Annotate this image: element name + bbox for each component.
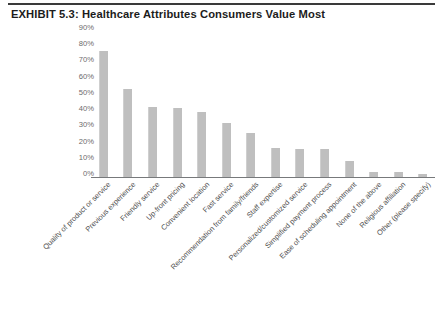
exhibit-page: EXHIBIT 5.3: Healthcare Attributes Consu… — [0, 0, 443, 323]
bar — [99, 51, 108, 177]
bar — [173, 108, 182, 177]
y-axis-tick-label: 40% — [60, 105, 94, 113]
bar — [418, 174, 427, 177]
y-axis-tick-label: 10% — [60, 154, 94, 162]
y-axis-tick-label: 30% — [60, 121, 94, 129]
bar — [222, 123, 231, 177]
bar — [394, 172, 403, 177]
bar — [295, 149, 304, 177]
y-axis-tick-label: 90% — [60, 24, 94, 32]
bars-container — [91, 30, 435, 177]
y-axis: 90%80%70%60%50%40%30%20%10%0% — [60, 28, 94, 180]
bar — [369, 172, 378, 177]
bar — [148, 107, 157, 177]
x-axis-line — [91, 177, 435, 178]
bar — [197, 112, 206, 177]
y-axis-tick-label: 20% — [60, 138, 94, 146]
y-axis-tick-label: 60% — [60, 73, 94, 81]
y-axis-tick-label: 80% — [60, 40, 94, 48]
bar — [271, 148, 280, 177]
bar — [320, 149, 329, 177]
bar — [246, 133, 255, 177]
y-axis-tick-label: 70% — [60, 56, 94, 64]
bar — [123, 89, 132, 177]
y-axis-tick-label: 0% — [60, 170, 94, 178]
bar-chart: 90%80%70%60%50%40%30%20%10%0% Quality of… — [0, 0, 443, 323]
bar — [345, 161, 354, 177]
x-axis-labels: Quality of product or servicePrevious ex… — [0, 180, 443, 320]
y-axis-tick-label: 50% — [60, 89, 94, 97]
